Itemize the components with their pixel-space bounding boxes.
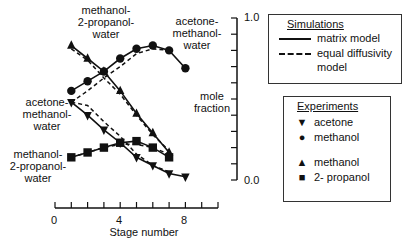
label-line: water bbox=[4, 172, 72, 184]
label-line: methanol- bbox=[162, 27, 232, 39]
x-tick-4: 4 bbox=[116, 214, 122, 226]
y-axis-label: mole fraction bbox=[190, 90, 234, 114]
x-tick-0: 0 bbox=[51, 214, 57, 226]
label-mpw-left: methanol- 2-propanol- water bbox=[4, 148, 72, 184]
legend-spacer bbox=[284, 145, 390, 155]
inverted-triangle-marker bbox=[181, 174, 189, 182]
label-line: water bbox=[66, 28, 146, 40]
legend-simulations: Simulations matrix model equal diffusivi… bbox=[268, 14, 402, 84]
y-tick-0: 0.0 bbox=[244, 174, 259, 186]
legend-sim-title: Simulations bbox=[287, 18, 401, 31]
circle-marker bbox=[181, 64, 189, 72]
label-line: acetone- bbox=[18, 96, 76, 108]
label-line: water bbox=[18, 120, 76, 132]
square-marker bbox=[100, 143, 108, 151]
circle-marker bbox=[116, 54, 124, 62]
x-axis-label: Stage number bbox=[104, 226, 184, 238]
legend-label: acetone bbox=[314, 116, 353, 129]
legend-sim-solid: matrix model bbox=[279, 31, 401, 46]
square-icon: ■ bbox=[296, 171, 308, 184]
legend-label: equal diffusivity bbox=[317, 47, 392, 60]
dashed-line-icon bbox=[279, 53, 311, 55]
label-line: methanol- bbox=[66, 4, 146, 16]
square-marker bbox=[165, 153, 173, 161]
label-line: 2-propanol- bbox=[4, 160, 72, 172]
x-tick-8: 8 bbox=[181, 214, 187, 226]
label-amw-top: acetone- methanol- water bbox=[162, 15, 232, 51]
legend-label: model bbox=[317, 61, 401, 74]
triangle-marker bbox=[67, 40, 75, 48]
legend-sim-dashed: equal diffusivity bbox=[279, 46, 401, 61]
legend-exp-item: ● methanol bbox=[296, 130, 390, 145]
label-line: water bbox=[162, 39, 232, 51]
label-line: methanol- bbox=[18, 108, 76, 120]
label-line: 2-propanol- bbox=[66, 16, 146, 28]
circle-marker bbox=[83, 77, 91, 85]
square-marker bbox=[116, 139, 124, 147]
legend-label: methanol bbox=[314, 131, 359, 144]
triangle-icon: ▲ bbox=[296, 156, 308, 169]
legend-label: matrix model bbox=[317, 32, 380, 45]
legend-exp-title: Experiments bbox=[297, 100, 390, 113]
label-line: methanol- bbox=[4, 148, 72, 160]
legend-exp-item: ▼ acetone bbox=[296, 115, 390, 130]
legend-exp-item: ▲ methanol bbox=[296, 155, 390, 170]
circle-marker bbox=[149, 41, 157, 49]
legend-label: methanol bbox=[314, 156, 359, 169]
inverted-triangle-marker bbox=[100, 127, 108, 135]
legend-label: 2- propanol bbox=[314, 171, 370, 184]
circle-icon: ● bbox=[296, 131, 308, 144]
legend-experiments: Experiments ▼ acetone ● methanol ▲ metha… bbox=[283, 96, 391, 202]
solid-line-icon bbox=[279, 38, 311, 40]
circle-marker bbox=[67, 87, 75, 95]
square-marker bbox=[132, 137, 140, 145]
label-amw-left: acetone- methanol- water bbox=[18, 96, 76, 132]
square-marker bbox=[83, 148, 91, 156]
label-line: fraction bbox=[190, 102, 234, 114]
square-marker bbox=[149, 143, 157, 151]
y-tick-1: 1.0 bbox=[244, 11, 259, 23]
legend-exp-item: ■ 2- propanol bbox=[296, 170, 390, 185]
label-line: acetone- bbox=[162, 15, 232, 27]
label-mpw-top: methanol- 2-propanol- water bbox=[66, 4, 146, 40]
inverted-triangle-icon: ▼ bbox=[296, 116, 308, 129]
circle-marker bbox=[132, 45, 140, 53]
inverted-triangle-marker bbox=[83, 112, 91, 120]
label-line: mole bbox=[190, 90, 234, 102]
